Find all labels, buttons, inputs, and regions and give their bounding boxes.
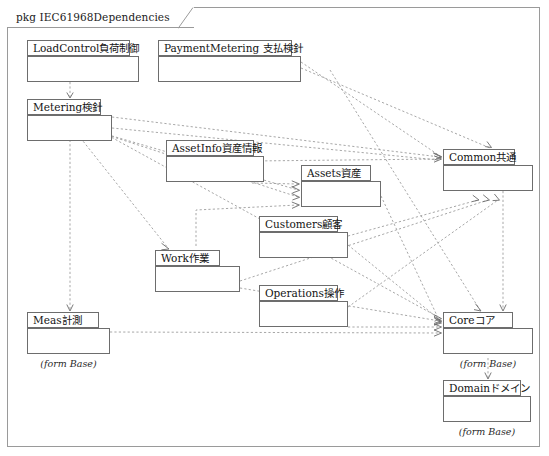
package-loadcontrol-label: LoadControl負荷制御	[33, 43, 139, 54]
package-core-stereotype: (form Base)	[443, 358, 533, 369]
package-customers-label: Customers顧客	[265, 219, 342, 230]
package-assetinfo-body[interactable]	[166, 156, 264, 182]
package-meas-label: Meas計測	[33, 315, 82, 326]
package-domain-tab[interactable]: Domainドメイン	[443, 380, 521, 396]
package-domain-label: Domainドメイン	[449, 383, 530, 394]
package-operations-body[interactable]	[259, 301, 348, 327]
package-domain[interactable]: Domainドメイン (form Base)	[443, 380, 531, 422]
diagram-frame-title: pkg IEC61968Dependencies	[16, 11, 170, 23]
package-core-tab[interactable]: Coreコア	[443, 312, 513, 328]
package-loadcontrol-tab[interactable]: LoadControl負荷制御	[27, 40, 130, 56]
package-common[interactable]: Common共通	[443, 149, 533, 191]
package-meas[interactable]: Meas計測 (form Base)	[27, 312, 110, 354]
package-customers-tab[interactable]: Customers顧客	[259, 216, 338, 232]
package-metering-body[interactable]	[27, 115, 112, 141]
diagram-frame-tab-corner	[178, 7, 194, 29]
package-common-label: Common共通	[449, 152, 516, 163]
package-operations-label: Operations操作	[265, 288, 344, 299]
package-operations-tab[interactable]: Operations操作	[259, 285, 338, 301]
package-assets-tab[interactable]: Assets資産	[301, 165, 371, 181]
package-assetinfo-label: AssetInfo資産情報	[172, 143, 262, 154]
package-customers-body[interactable]	[259, 232, 348, 258]
package-paymentmetering[interactable]: PaymentMetering 支払検針	[158, 40, 301, 82]
package-loadcontrol[interactable]: LoadControl負荷制御	[27, 40, 139, 82]
package-domain-body[interactable]	[443, 396, 531, 422]
package-domain-stereotype: (form Base)	[443, 426, 531, 437]
package-core[interactable]: Coreコア (form Base)	[443, 312, 533, 354]
package-metering-tab[interactable]: Metering検針	[27, 99, 101, 115]
package-common-tab[interactable]: Common共通	[443, 149, 515, 165]
package-operations[interactable]: Operations操作	[259, 285, 348, 327]
package-loadcontrol-body[interactable]	[27, 56, 139, 82]
package-paymentmetering-label: PaymentMetering 支払検針	[164, 43, 303, 54]
package-work-tab[interactable]: Work作業	[155, 250, 220, 266]
package-assets-label: Assets資産	[307, 168, 361, 179]
package-assetinfo-tab[interactable]: AssetInfo資産情報	[166, 140, 254, 156]
uml-package-diagram: pkg IEC61968Dependencies	[0, 0, 549, 456]
package-core-body[interactable]	[443, 328, 533, 354]
package-customers[interactable]: Customers顧客	[259, 216, 348, 258]
package-work-label: Work作業	[161, 253, 209, 264]
package-assetinfo[interactable]: AssetInfo資産情報	[166, 140, 264, 182]
package-work[interactable]: Work作業	[155, 250, 240, 292]
package-meas-body[interactable]	[27, 328, 110, 354]
package-assets[interactable]: Assets資産	[301, 165, 381, 207]
package-common-body[interactable]	[443, 165, 533, 191]
package-work-body[interactable]	[155, 266, 240, 292]
package-metering[interactable]: Metering検針	[27, 99, 112, 141]
package-meas-stereotype: (form Base)	[27, 358, 110, 369]
diagram-frame-tab: pkg IEC61968Dependencies	[7, 7, 194, 28]
package-meas-tab[interactable]: Meas計測	[27, 312, 99, 328]
package-core-label: Coreコア	[449, 315, 495, 326]
package-metering-label: Metering検針	[33, 102, 102, 113]
package-paymentmetering-body[interactable]	[158, 56, 301, 82]
package-assets-body[interactable]	[301, 181, 381, 207]
package-paymentmetering-tab[interactable]: PaymentMetering 支払検針	[158, 40, 292, 56]
